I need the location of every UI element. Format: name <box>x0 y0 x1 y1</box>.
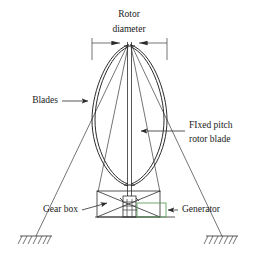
gearbox-unit <box>120 196 139 217</box>
ground-anchor-right <box>204 236 238 244</box>
label-gear-box: Gear box <box>43 204 78 214</box>
support-frame <box>95 191 175 217</box>
label-blades: Blades <box>32 95 58 105</box>
label-fixed-pitch-line1: FIxed pitch <box>189 120 233 130</box>
label-fixed-pitch-line2: rotor blade <box>189 134 230 144</box>
central-rotor-shaft <box>128 42 132 196</box>
ground-anchor-left <box>18 236 52 244</box>
label-rotor-diameter-line2: diameter <box>112 24 146 34</box>
generator-unit <box>136 203 166 217</box>
label-rotor-diameter-line1: Rotor <box>118 9 140 19</box>
rotor-diameter-dimension <box>92 38 167 60</box>
wind-turbine-diagram: Rotor diameter Blades FIxed pitch rotor … <box>0 0 263 256</box>
label-generator: Generator <box>182 204 221 214</box>
